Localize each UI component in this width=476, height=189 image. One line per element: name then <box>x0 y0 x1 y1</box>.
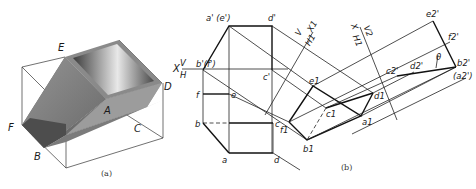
label-e2: e2' <box>426 9 439 19</box>
top-view: f e b c a d <box>195 90 280 165</box>
label-f1: f1 <box>280 125 288 135</box>
label-C: C <box>134 123 141 134</box>
label-a1: a1 <box>362 117 373 127</box>
label-x2-h: H1 <box>351 33 365 48</box>
label-E: E <box>58 42 65 53</box>
label-d-prime: d' <box>268 13 276 23</box>
label-a-prime-e-prime: a' (e') <box>206 13 230 23</box>
label-D: D <box>164 81 172 92</box>
label-x1-v: V <box>293 26 305 37</box>
auxiliary-view-2: e2' f2' c2' d2' b2' (a2') θ <box>386 9 473 81</box>
label-d2: d2' <box>410 61 423 71</box>
label-F: F <box>8 122 14 133</box>
auxiliary-view-1: e1 d1 c1 a1 b1 f1 <box>280 76 385 154</box>
label-a2: (a2') <box>453 71 473 81</box>
figure-canvas: E D A F C B (a) X V H a' (e') d' b'(f') … <box>0 0 476 189</box>
label-b2: b2' <box>457 58 470 68</box>
label-b-prime-f-prime: b'(f') <box>196 59 216 69</box>
label-d1: d1 <box>374 91 385 101</box>
label-x1-x: X1 <box>304 19 319 35</box>
figure-a-isometric-solid: E D A F C B (a) <box>8 40 172 178</box>
label-c1: c1 <box>326 109 336 119</box>
label-h: H <box>180 70 187 80</box>
label-f2: f2' <box>448 32 459 42</box>
label-A: A <box>103 105 111 116</box>
label-x2-x: X <box>348 21 360 31</box>
label-e1: e1 <box>309 76 320 86</box>
label-a: a <box>222 155 227 165</box>
label-f: f <box>196 90 201 100</box>
front-view: a' (e') d' b'(f') c' <box>196 13 276 153</box>
caption-b: (b) <box>341 163 352 172</box>
label-B: B <box>34 151 41 162</box>
label-v: V <box>180 58 187 68</box>
label-b: b <box>195 119 200 129</box>
label-c-prime: c' <box>263 72 270 82</box>
label-c2: c2' <box>386 66 398 76</box>
figure-b-projection-drawing: X V H a' (e') d' b'(f') c' f e b c <box>172 9 473 172</box>
label-b1: b1 <box>303 144 314 154</box>
caption-a: (a) <box>101 169 112 178</box>
label-theta: θ <box>436 52 442 62</box>
